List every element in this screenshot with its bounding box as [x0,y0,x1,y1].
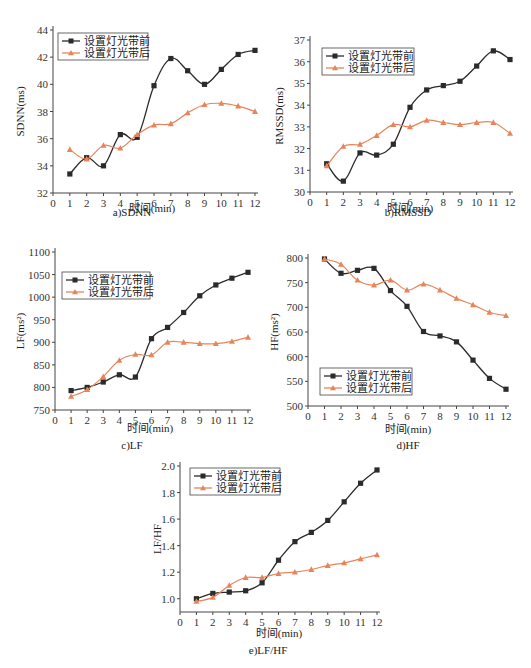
square-marker [424,87,429,92]
y-tick-label: 1.2 [161,566,175,578]
x-tick-label: 2 [341,196,347,208]
legend-before: 设置灯光带前 [88,273,154,286]
legend-after: 设置灯光带后 [216,481,282,494]
y-tick-label: 1.8 [161,487,175,499]
x-tick-label: 1 [194,616,200,628]
square-marker [165,325,170,330]
square-marker [149,336,154,341]
series-after [67,100,258,161]
legend-after: 设置灯光带后 [84,46,150,59]
legend: 设置灯光带前设置灯光带后 [190,468,282,495]
series-after [324,117,513,168]
y-tick-label: 800 [287,252,304,264]
y-tick-label: 36 [37,133,49,145]
x-tick-label: 3 [101,414,107,426]
square-marker [441,83,446,88]
legend-before: 设置灯光带前 [346,369,412,382]
series-after [322,256,510,318]
square-marker [227,589,232,594]
y-tick-label: 1000 [28,291,51,303]
square-marker [404,304,409,309]
square-marker [168,56,173,61]
square-marker [185,68,190,73]
x-tick-label: 8 [437,410,443,422]
square-marker [491,48,496,53]
square-marker [358,481,363,486]
y-tick-label: 600 [287,351,304,363]
square-marker [325,518,330,523]
y-tick-label: 31 [294,164,305,176]
y-tick-label: 42 [37,51,48,63]
x-tick-label: 9 [325,616,331,628]
y-tick-label: 40 [37,78,49,90]
x-axis-label: 时间(min) [385,423,432,436]
x-tick-label: 0 [305,410,311,422]
y-tick-label: 34 [294,99,306,111]
square-marker [342,499,347,504]
chart-caption: d)HF [396,439,419,452]
x-tick-label: 12 [250,197,261,209]
triangle-marker [226,582,232,588]
triangle-marker [67,146,73,152]
y-tick-label: 1.0 [161,593,175,605]
y-tick-label: 850 [34,359,51,371]
y-tick-label: 35 [294,77,306,89]
square-marker [371,266,376,271]
x-tick-label: 12 [505,196,516,208]
legend-before: 设置灯光带前 [84,34,150,47]
x-tick-label: 4 [117,414,123,426]
square-marker [236,52,241,57]
y-tick-label: 34 [37,160,49,172]
y-tick-label: 2.0 [161,460,175,472]
triangle-marker [185,110,191,116]
chart-e: 1.01.21.41.61.82.00123456789101112时间(min… [151,460,383,657]
square-marker [243,588,248,593]
x-tick-label: 1 [322,410,328,422]
square-marker [276,558,281,563]
square-marker [391,142,396,147]
y-tick-label: 650 [287,326,304,338]
square-marker [503,387,508,392]
square-marker [470,358,475,363]
x-tick-label: 6 [404,410,410,422]
chart-caption: b)RMSSD [385,206,432,219]
x-tick-label: 7 [421,410,427,422]
square-marker [68,388,73,393]
triangle-marker [374,132,380,138]
series-before [67,48,257,177]
y-tick-label: 38 [37,106,49,118]
x-tick-label: 2 [84,414,90,426]
y-tick-label: 800 [34,381,51,393]
square-marker [507,57,512,62]
y-tick-label: 44 [37,24,49,36]
square-marker [357,150,362,155]
square-marker [197,293,202,298]
y-tick-label: 750 [34,404,51,416]
square-marker [118,132,123,137]
legend-after: 设置灯光带后 [348,61,414,74]
x-tick-label: 4 [374,196,380,208]
y-axis-label: LF(ms²) [14,313,27,350]
y-tick-label: 1100 [28,246,50,258]
square-marker [341,179,346,184]
y-tick-label: 37 [294,34,306,46]
x-tick-label: 5 [388,410,394,422]
triangle-marker [116,357,122,363]
square-marker [69,39,74,44]
x-tick-label: 3 [227,616,233,628]
y-tick-label: 1.4 [161,540,175,552]
x-tick-label: 12 [501,410,512,422]
chart-caption: c)LF [121,439,142,452]
legend-before: 设置灯光带前 [216,469,282,482]
x-tick-label: 12 [372,616,383,628]
y-tick-label: 30 [294,186,306,198]
legend-after: 设置灯光带后 [346,381,412,394]
x-tick-label: 9 [202,197,208,209]
y-tick-label: 950 [34,314,51,326]
square-marker [213,282,218,287]
square-marker [374,152,379,157]
square-marker [474,63,479,68]
square-marker [487,376,492,381]
y-axis-label: SDNN(ms) [14,86,27,136]
square-marker [151,83,156,88]
